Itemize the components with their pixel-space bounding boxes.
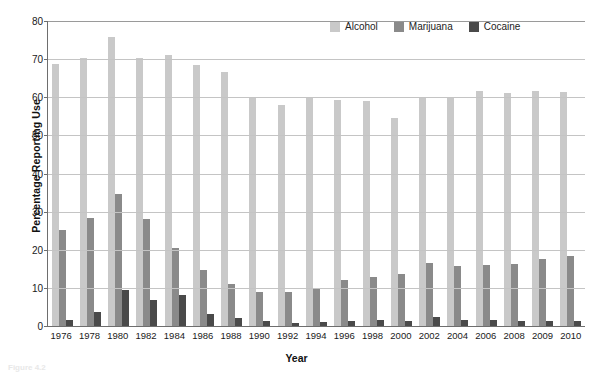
bar-alcohol-1980 bbox=[108, 37, 115, 326]
gridline bbox=[48, 59, 585, 60]
gridline bbox=[48, 174, 585, 175]
bar-alcohol-2008 bbox=[504, 93, 511, 326]
gridline bbox=[48, 21, 585, 22]
bar-cocaine-2006 bbox=[490, 320, 497, 326]
x-axis-tick-label: 1980 bbox=[104, 330, 132, 341]
y-axis-tick-label: 10 bbox=[1, 282, 43, 293]
bar-cocaine-2008 bbox=[518, 321, 525, 326]
plot-area: 01020304050607080 bbox=[47, 21, 585, 327]
y-axis-tick-label: 70 bbox=[1, 54, 43, 65]
bar-alcohol-1976 bbox=[52, 64, 59, 326]
bar-marijuana-2004 bbox=[454, 266, 461, 326]
x-axis-tick-label: 1996 bbox=[330, 330, 358, 341]
bar-alcohol-1978 bbox=[80, 58, 87, 326]
bar-alcohol-1984 bbox=[165, 55, 172, 326]
bar-marijuana-1980 bbox=[115, 194, 122, 326]
bar-marijuana-2009 bbox=[539, 259, 546, 326]
bar-alcohol-2009 bbox=[532, 91, 539, 326]
bar-marijuana-1986 bbox=[200, 270, 207, 326]
y-axis-tick-mark bbox=[44, 97, 48, 98]
x-axis-tick-label: 1984 bbox=[160, 330, 188, 341]
x-axis-tick-label: 2000 bbox=[387, 330, 415, 341]
gridline bbox=[48, 288, 585, 289]
y-axis-tick-mark bbox=[44, 21, 48, 22]
x-axis-tick-label: 1990 bbox=[245, 330, 273, 341]
bar-cocaine-1978 bbox=[94, 312, 101, 326]
x-axis-title: Year bbox=[0, 352, 593, 364]
y-axis-tick-label: 20 bbox=[1, 244, 43, 255]
bar-marijuana-2008 bbox=[511, 264, 518, 326]
bar-marijuana-2006 bbox=[483, 265, 490, 326]
bar-cocaine-1984 bbox=[179, 295, 186, 326]
x-axis-tick-label: 2008 bbox=[500, 330, 528, 341]
bar-cocaine-1990 bbox=[263, 321, 270, 326]
y-axis-tick-mark bbox=[44, 288, 48, 289]
x-axis-tick-label: 2004 bbox=[443, 330, 471, 341]
y-axis-tick-label: 40 bbox=[1, 168, 43, 179]
bar-marijuana-1976 bbox=[59, 230, 66, 326]
bar-cocaine-1976 bbox=[66, 320, 73, 326]
bar-marijuana-1996 bbox=[341, 280, 348, 326]
y-axis-tick-mark bbox=[44, 212, 48, 213]
y-axis-tick-mark bbox=[44, 59, 48, 60]
gridline bbox=[48, 97, 585, 98]
bar-alcohol-2010 bbox=[560, 92, 567, 326]
bar-cocaine-2009 bbox=[546, 321, 553, 326]
bar-marijuana-2002 bbox=[426, 263, 433, 326]
y-axis-tick-mark bbox=[44, 135, 48, 136]
bar-marijuana-1982 bbox=[143, 219, 150, 326]
x-axis-tick-label: 1988 bbox=[217, 330, 245, 341]
x-axis-tick-label: 1978 bbox=[75, 330, 103, 341]
bar-marijuana-2000 bbox=[398, 274, 405, 326]
bar-cocaine-1992 bbox=[292, 323, 299, 326]
x-axis-tick-label: 1982 bbox=[132, 330, 160, 341]
bar-cocaine-1980 bbox=[122, 290, 129, 326]
x-axis-tick-label: 2002 bbox=[415, 330, 443, 341]
bar-alcohol-1996 bbox=[334, 100, 341, 326]
x-axis-tick-label: 1994 bbox=[302, 330, 330, 341]
gridline bbox=[48, 135, 585, 136]
bar-cocaine-2002 bbox=[433, 317, 440, 326]
x-axis-tick-label: 1998 bbox=[358, 330, 386, 341]
y-axis-tick-label: 80 bbox=[1, 16, 43, 27]
x-axis-tick-label: 2009 bbox=[528, 330, 556, 341]
x-axis-tick-label: 2010 bbox=[557, 330, 585, 341]
bar-marijuana-1998 bbox=[370, 277, 377, 326]
bar-marijuana-1990 bbox=[256, 292, 263, 326]
bar-marijuana-1988 bbox=[228, 284, 235, 326]
bar-cocaine-2010 bbox=[574, 321, 581, 326]
bar-marijuana-2010 bbox=[567, 256, 574, 326]
bar-cocaine-1982 bbox=[150, 300, 157, 326]
bar-alcohol-1982 bbox=[136, 58, 143, 326]
x-axis-tick-label: 1992 bbox=[274, 330, 302, 341]
bar-alcohol-1992 bbox=[278, 105, 285, 326]
bar-cocaine-1988 bbox=[235, 318, 242, 326]
bar-cocaine-1994 bbox=[320, 322, 327, 326]
bar-cocaine-1996 bbox=[348, 321, 355, 326]
bar-cocaine-1998 bbox=[377, 320, 384, 326]
y-axis-tick-label: 30 bbox=[1, 206, 43, 217]
y-axis-tick-mark bbox=[44, 250, 48, 251]
bar-cocaine-2004 bbox=[461, 320, 468, 326]
bar-alcohol-1986 bbox=[193, 65, 200, 326]
bar-marijuana-1992 bbox=[285, 292, 292, 326]
bar-cocaine-2000 bbox=[405, 321, 412, 326]
bar-chart: AlcoholMarijuanaCocaine Percentage Repor… bbox=[0, 0, 593, 375]
y-axis-tick-mark bbox=[44, 326, 48, 327]
bar-alcohol-2000 bbox=[391, 118, 398, 326]
gridline bbox=[48, 212, 585, 213]
bar-alcohol-2006 bbox=[476, 91, 483, 326]
y-axis-tick-label: 0 bbox=[1, 321, 43, 332]
figure-caption: Figure 4.2 bbox=[8, 363, 46, 372]
y-axis-tick-mark bbox=[44, 174, 48, 175]
x-axis-tick-label: 1986 bbox=[189, 330, 217, 341]
x-axis-tick-label: 1976 bbox=[47, 330, 75, 341]
bar-marijuana-1994 bbox=[313, 289, 320, 326]
y-axis-tick-label: 50 bbox=[1, 130, 43, 141]
bar-cocaine-1986 bbox=[207, 314, 214, 326]
gridline bbox=[48, 250, 585, 251]
x-axis-tick-label: 2006 bbox=[472, 330, 500, 341]
y-axis-tick-label: 60 bbox=[1, 92, 43, 103]
x-axis-tick-labels: 1976197819801982198419861988199019921994… bbox=[47, 330, 585, 341]
bar-marijuana-1978 bbox=[87, 218, 94, 326]
